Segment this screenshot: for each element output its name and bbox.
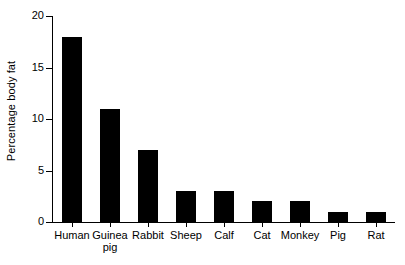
bar-slot <box>91 16 129 222</box>
y-axis-tick: 15 <box>22 68 52 69</box>
y-axis-tick-label: 5 <box>38 165 44 176</box>
x-axis-tick-mark <box>186 223 187 227</box>
bar[interactable] <box>176 191 196 222</box>
x-axis-tick-mark <box>148 223 149 227</box>
bar[interactable] <box>138 150 158 222</box>
bar[interactable] <box>214 191 234 222</box>
y-axis-tick-label: 10 <box>32 113 44 124</box>
plot-area <box>53 16 395 222</box>
y-axis-title: Percentage body fat <box>0 0 22 222</box>
bar[interactable] <box>328 212 348 222</box>
bar[interactable] <box>252 201 272 222</box>
y-axis-tick-label: 15 <box>32 62 44 73</box>
y-axis-tick: 0 <box>22 222 52 223</box>
bar[interactable] <box>100 109 120 222</box>
y-axis-title-label: Percentage body fat <box>5 61 17 161</box>
bar-slot <box>129 16 167 222</box>
bar[interactable] <box>366 212 386 222</box>
bar-slot <box>205 16 243 222</box>
y-axis-tick-label: 0 <box>38 216 44 227</box>
x-axis-tick-mark <box>300 223 301 227</box>
x-axis-tick-mark <box>376 223 377 227</box>
x-axis-tick-mark <box>110 223 111 227</box>
bar-chart: Percentage body fat 20151050 HumanGuinea… <box>0 0 405 265</box>
bar-slot <box>53 16 91 222</box>
bar-slot <box>167 16 205 222</box>
y-axis-tick: 10 <box>22 119 52 120</box>
y-axis-tick: 20 <box>22 16 52 17</box>
x-axis-tick-mark <box>262 223 263 227</box>
x-axis-tick-label: Rat <box>351 229 401 241</box>
bar[interactable] <box>62 37 82 222</box>
bar[interactable] <box>290 201 310 222</box>
bar-slot <box>243 16 281 222</box>
x-axis-tick-mark <box>72 223 73 227</box>
bar-slot <box>319 16 357 222</box>
bar-slot <box>357 16 395 222</box>
y-axis-tick: 5 <box>22 171 52 172</box>
x-axis-tick-mark <box>224 223 225 227</box>
y-axis-tick-label: 20 <box>32 10 44 21</box>
bar-slot <box>281 16 319 222</box>
x-axis-tick-mark <box>338 223 339 227</box>
